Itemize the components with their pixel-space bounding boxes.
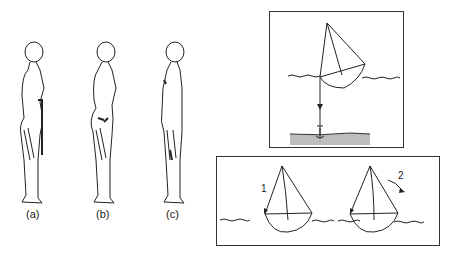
arrow-2-label: 2 [398,170,404,181]
anchored-boat-panel [270,12,404,148]
figure-a [20,42,44,203]
figure-b-label: (b) [96,208,109,220]
figure-a-label: (a) [26,208,39,220]
figure-c-label: (c) [166,208,179,220]
diagram-canvas [0,0,458,257]
boats-panel [217,157,440,246]
arrow-1-label: 1 [261,183,267,194]
human-figures [20,42,184,203]
figure-c [161,42,184,203]
figure-b [91,42,116,203]
